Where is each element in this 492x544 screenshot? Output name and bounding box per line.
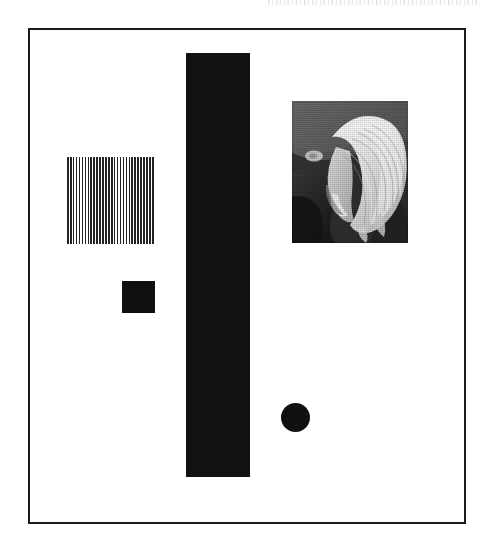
striped-square-shape <box>67 157 155 244</box>
scan-artifact-band <box>268 0 478 5</box>
photograph-svg <box>292 101 408 243</box>
black-square-shape <box>122 281 155 313</box>
tall-vertical-bar-shape <box>186 53 250 477</box>
plate-frame-border <box>28 28 466 524</box>
black-circle-shape <box>281 403 310 432</box>
photograph-image <box>292 101 408 243</box>
artwork-canvas <box>0 0 492 544</box>
